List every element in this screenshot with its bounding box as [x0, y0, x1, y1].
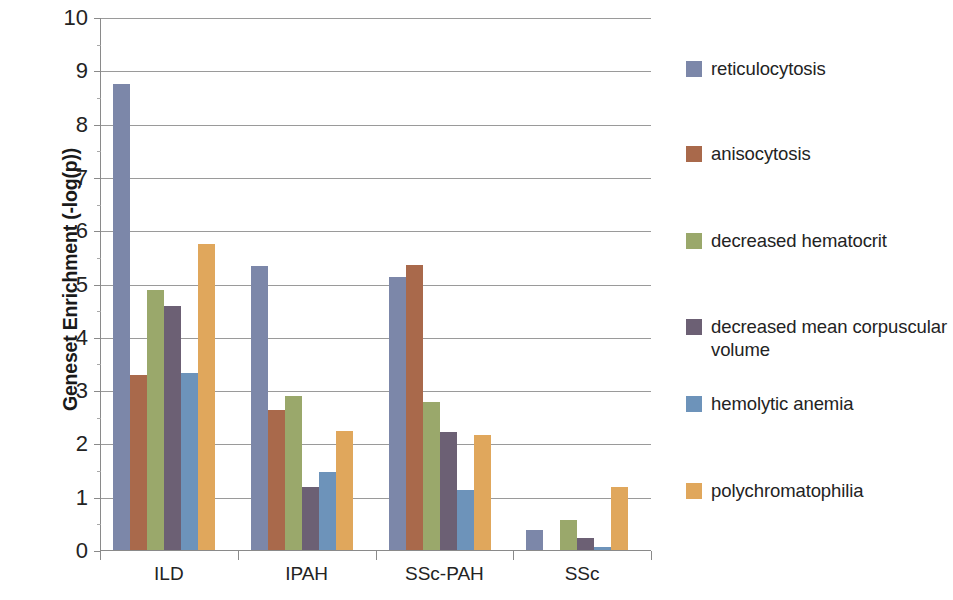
bar: [611, 487, 628, 550]
legend-label: hemolytic anemia: [711, 393, 853, 416]
bar-chart: Geneset Enrichment (-log(p)) 01234567891…: [0, 0, 953, 600]
gridline: [100, 71, 651, 72]
y-axis-minor-tick: [97, 524, 101, 525]
y-axis-tick: [94, 125, 101, 126]
legend-swatch-icon: [686, 233, 702, 249]
legend-item[interactable]: decreased mean corpuscular volume: [686, 316, 948, 361]
bar: [423, 402, 440, 550]
plot-area: 012345678910: [100, 18, 651, 551]
y-axis-minor-tick: [97, 418, 101, 419]
legend-item[interactable]: reticulocytosis: [686, 58, 826, 81]
y-axis-tick: [94, 338, 101, 339]
gridline: [100, 338, 651, 339]
x-axis-group-separator: [100, 551, 101, 560]
y-axis-minor-tick: [97, 45, 101, 46]
bar: [577, 538, 594, 550]
legend-item[interactable]: anisocytosis: [686, 143, 811, 166]
bar: [457, 490, 474, 550]
y-axis-minor-tick: [97, 364, 101, 365]
bar: [147, 290, 164, 550]
x-axis-group-separator: [651, 551, 652, 560]
bar: [285, 396, 302, 550]
y-axis-tick-label: 8: [76, 112, 88, 138]
legend-label: reticulocytosis: [711, 58, 826, 81]
x-axis-group-separator: [513, 551, 514, 560]
legend-swatch-icon: [686, 396, 702, 412]
y-axis-tick-label: 2: [76, 431, 88, 457]
gridline: [100, 125, 651, 126]
bar: [474, 435, 491, 550]
gridline: [100, 285, 651, 286]
y-axis-minor-tick: [97, 205, 101, 206]
y-axis-tick-label: 6: [76, 218, 88, 244]
bar: [164, 306, 181, 550]
x-axis-tick-label-ild: ILD: [154, 563, 184, 585]
y-axis-tick-label: 10: [64, 5, 88, 31]
bar: [336, 431, 353, 550]
y-axis-tick: [94, 498, 101, 499]
y-axis-tick-label: 0: [76, 538, 88, 564]
legend-swatch-icon: [686, 61, 702, 77]
y-axis-tick: [94, 18, 101, 19]
x-axis-tick-label-ipah: IPAH: [285, 563, 328, 585]
legend-swatch-icon: [686, 146, 702, 162]
x-axis-group-separator: [376, 551, 377, 560]
legend-label: anisocytosis: [711, 143, 811, 166]
bar: [113, 84, 130, 550]
y-axis-tick-label: 3: [76, 378, 88, 404]
y-axis-tick: [94, 231, 101, 232]
legend-item[interactable]: polychromatophilia: [686, 480, 863, 503]
x-axis-tick-label-ssc: SSc: [565, 563, 600, 585]
y-axis-minor-tick: [97, 258, 101, 259]
gridline: [100, 178, 651, 179]
x-axis-tick-label-ssc-pah: SSc-PAH: [405, 563, 484, 585]
legend-label: decreased mean corpuscular volume: [711, 316, 948, 361]
bar: [389, 277, 406, 550]
y-axis-minor-tick: [97, 311, 101, 312]
y-axis-tick: [94, 285, 101, 286]
legend-swatch-icon: [686, 319, 702, 335]
y-axis-tick-label: 9: [76, 58, 88, 84]
x-axis-group-separator: [238, 551, 239, 560]
bar: [440, 432, 457, 550]
gridline: [100, 231, 651, 232]
bar: [406, 265, 423, 550]
bar: [319, 472, 336, 550]
legend-label: decreased hematocrit: [711, 230, 887, 253]
bar: [560, 520, 577, 550]
y-axis-tick: [94, 71, 101, 72]
bar: [526, 530, 543, 550]
y-axis-tick: [94, 391, 101, 392]
y-axis-tick: [94, 178, 101, 179]
legend-item[interactable]: decreased hematocrit: [686, 230, 887, 253]
legend-label: polychromatophilia: [711, 480, 863, 503]
bar: [130, 375, 147, 550]
bar: [198, 244, 215, 550]
bar: [251, 266, 268, 550]
bar: [181, 373, 198, 550]
y-axis-tick: [94, 444, 101, 445]
legend-item[interactable]: hemolytic anemia: [686, 393, 853, 416]
y-axis-tick-label: 1: [76, 485, 88, 511]
y-axis-minor-tick: [97, 471, 101, 472]
y-axis-tick-label: 7: [76, 165, 88, 191]
bar: [268, 410, 285, 550]
y-axis-tick-label: 5: [76, 272, 88, 298]
gridline: [100, 18, 651, 19]
bar: [594, 547, 611, 550]
legend-swatch-icon: [686, 483, 702, 499]
y-axis-tick-label: 4: [76, 325, 88, 351]
bar: [302, 487, 319, 550]
y-axis-minor-tick: [97, 151, 101, 152]
y-axis-minor-tick: [97, 98, 101, 99]
